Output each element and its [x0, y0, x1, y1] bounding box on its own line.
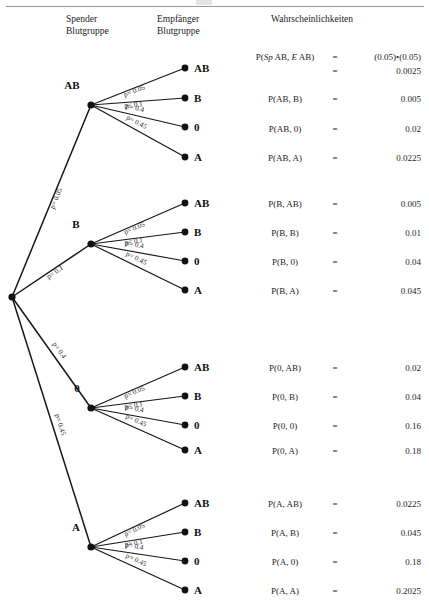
leaf-label-ab-b: B [194, 92, 202, 104]
probability-tree-page: Spender Blutgruppe Empfänger Blutgruppe … [0, 0, 429, 601]
probability-value: 0.005 [340, 199, 421, 209]
probability-row: P(B, A)=0.045 [240, 286, 425, 298]
probability-value: 0.0025 [340, 66, 421, 76]
root-node [8, 293, 15, 300]
leaf-node-0-0 [182, 422, 189, 429]
probability-row: P(A, B)=0.045 [240, 528, 425, 540]
branch-label-l2-a-ab: p= 0.05 [123, 521, 147, 538]
leaf-label-b-ab: AB [194, 197, 210, 209]
probability-row: P(A, A)=0.2025 [240, 586, 425, 598]
probability-row: P(AB, A)=0.0225 [240, 153, 425, 165]
probability-value: 0.005 [340, 94, 421, 104]
leaf-label-ab-ab: AB [194, 62, 210, 74]
leaf-node-ab-b [182, 95, 189, 102]
branch-label-l1-b: p= 0.1 [45, 264, 65, 281]
tree-labels-group: p= 0.05p= 0.1p= 0.4p= 0.45ABABp= 0.05Bp=… [45, 62, 210, 596]
probability-value: 0.045 [340, 528, 421, 538]
probability-value: 0.01 [340, 228, 421, 238]
leaf-node-0-a [182, 447, 189, 454]
probability-row: P(B, B)=0.01 [240, 228, 425, 240]
leaf-node-0-ab [182, 364, 189, 371]
probability-expression: P(0, AB) [240, 363, 330, 373]
branch-label-l2-b-ab: p= 0.05 [123, 220, 147, 236]
hub-label-ab: AB [64, 79, 80, 91]
branch-label-l2-0-ab: p= 0.05 [123, 384, 147, 400]
leaf-label-b-b: B [194, 226, 202, 238]
probability-expression: P(0, 0) [240, 421, 330, 431]
leaf-node-b-ab [182, 200, 189, 207]
leaf-label-0-0: 0 [194, 419, 200, 431]
branch-label-l1-ab: p= 0.05 [48, 186, 64, 210]
probability-expression: P(0, B) [240, 392, 330, 402]
branch-label-l2-a-0: p= 0.4 [125, 541, 145, 552]
probability-expression: P(AB, 0) [240, 124, 330, 134]
branch-label-l1-0: p= 0.4 [51, 341, 68, 361]
leaf-label-a-ab: AB [194, 497, 210, 509]
probability-row: P(0, B)=0.04 [240, 392, 425, 404]
probability-expression: P(AB, A) [240, 153, 330, 163]
branch-l1-a [12, 297, 91, 547]
branch-l2-b-a [91, 244, 185, 290]
leaf-label-0-b: B [194, 390, 202, 402]
leaf-node-a-a [182, 587, 189, 594]
probability-row: P(AB, B)=0.005 [240, 94, 425, 106]
probability-expression: P(Sp AB, E AB) [240, 52, 330, 62]
leaf-node-b-a [182, 287, 189, 294]
probability-expression: P(A, B) [240, 528, 330, 538]
probability-expression: P(B, AB) [240, 199, 330, 209]
probability-value: 0.0225 [340, 153, 421, 163]
probability-expression: P(A, A) [240, 586, 330, 596]
leaf-label-0-a: A [194, 444, 202, 456]
leaf-label-b-a: A [194, 284, 202, 296]
leaf-node-a-0 [182, 558, 189, 565]
probability-expression: P(A, AB) [240, 499, 330, 509]
probability-value: 0.04 [340, 257, 421, 267]
probability-row: P(B, 0)=0.04 [240, 257, 425, 269]
leaf-node-0-b [182, 393, 189, 400]
leaf-node-b-0 [182, 258, 189, 265]
leaf-label-0-ab: AB [194, 361, 210, 373]
leaf-label-ab-0: 0 [194, 121, 200, 133]
probability-expression: P(B, 0) [240, 257, 330, 267]
probability-value: 0.2025 [340, 586, 421, 596]
probability-value: 0.04 [340, 392, 421, 402]
leaf-label-a-0: 0 [194, 555, 200, 567]
probability-row: P(0, A)=0.18 [240, 446, 425, 458]
probability-expression: P(AB, B) [240, 94, 330, 104]
probability-row: P(0, 0)=0.16 [240, 421, 425, 433]
probability-value: 0.045 [340, 286, 421, 296]
branch-label-l2-0-a: p= 0.45 [124, 412, 148, 428]
hub-node-0 [87, 404, 94, 411]
leaf-label-a-b: B [194, 526, 202, 538]
probability-row: P(B, AB)=0.005 [240, 199, 425, 211]
leaf-label-a-a: A [194, 584, 202, 596]
leaf-node-a-ab [182, 500, 189, 507]
probability-row: P(AB, 0)=0.02 [240, 124, 425, 136]
probability-value: 0.02 [340, 363, 421, 373]
probability-value: 0.02 [340, 124, 421, 134]
branch-label-l2-ab-ab: p= 0.05 [123, 83, 147, 99]
leaf-node-ab-0 [182, 124, 189, 131]
probability-expression: P(B, B) [240, 228, 330, 238]
probability-expression: P(0, A) [240, 446, 330, 456]
hub-label-a: A [72, 521, 80, 533]
probability-value: 0.18 [340, 446, 421, 456]
hub-node-ab [87, 101, 94, 108]
hub-label-b: B [72, 218, 80, 230]
leaf-node-ab-ab [182, 65, 189, 72]
probability-value: 0.16 [340, 421, 421, 431]
probability-row: P(A, AB)=0.0225 [240, 499, 425, 511]
hub-node-a [87, 543, 94, 550]
leaf-node-ab-a [182, 154, 189, 161]
leaf-node-a-b [182, 529, 189, 536]
leaf-label-ab-a: A [194, 151, 202, 163]
branch-l2-0-a [91, 408, 185, 450]
hub-label-0: 0 [74, 382, 80, 394]
leaf-label-b-0: 0 [194, 255, 200, 267]
probability-row: =0.0025 [240, 66, 425, 78]
probability-value: 0.0225 [340, 499, 421, 509]
hub-node-b [87, 240, 94, 247]
probability-row: P(0, AB)=0.02 [240, 363, 425, 375]
probability-value: 0.18 [340, 557, 421, 567]
probability-expression: P(B, A) [240, 286, 330, 296]
